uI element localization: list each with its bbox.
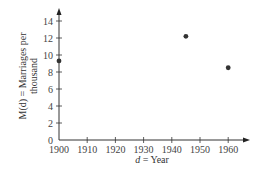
y-axis-arrow-icon [57,8,62,15]
y-tick-label: 8 [48,67,53,78]
y-tick-label: 10 [43,50,53,61]
x-tick-label: 1900 [49,144,69,155]
x-tick-label: 1960 [218,144,238,155]
data-points [57,34,231,70]
y-tick-label: 6 [48,84,53,95]
x-tick-label: 1910 [77,144,97,155]
x-tick-label: 1920 [105,144,125,155]
data-point [226,65,231,70]
y-tick-label: 14 [43,16,53,27]
x-axis-title: d = Year [135,154,169,165]
x-tick-label: 1950 [190,144,210,155]
data-point [184,34,189,39]
y-tick-label: 12 [43,33,53,44]
data-point [57,59,62,64]
x-axis-arrow-icon [243,138,250,143]
scatter-chart: 02468101214 1900191019201930194019501960… [0,0,268,180]
y-tick-label: 2 [48,118,53,129]
y-tick-label: 4 [48,101,53,112]
y-axis-title-line2: thousand [28,58,39,94]
